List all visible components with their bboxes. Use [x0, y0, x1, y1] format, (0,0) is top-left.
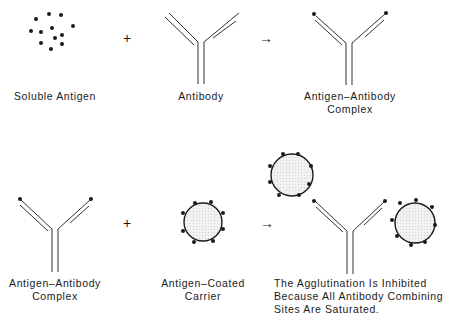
arrow-icon-bottom: →: [260, 216, 274, 230]
antibody-label: Antibody: [161, 90, 241, 103]
complex-label-top: Antigen–Antibody Complex: [295, 90, 405, 116]
soluble-antigen-dots: [29, 12, 75, 51]
antibody-shape: [165, 13, 239, 84]
soluble-antigen-label: Soluble Antigen: [5, 90, 105, 103]
saturated-antibody-shape: [316, 202, 384, 274]
result-description: The Agglutination Is Inhibited Because A…: [274, 277, 443, 316]
free-carrier-shape-right: [390, 198, 437, 247]
arrow-icon-top: →: [259, 31, 273, 45]
carrier-label-line1: Antigen–Coated: [148, 277, 258, 290]
result-line3: Sites Are Saturated.: [274, 303, 443, 316]
complex-label-bottom-line2: Complex: [0, 290, 110, 303]
result-line1: The Agglutination Is Inhibited: [274, 277, 443, 290]
antigen-antibody-complex-shape-top: [315, 14, 385, 85]
agglutination-inhibition-diagram: [0, 0, 469, 324]
antigen-antibody-complex-shape-bottom: [20, 200, 90, 272]
result-line2: Because All Antibody Combining: [274, 290, 443, 303]
complex-label-bottom-line1: Antigen–Antibody: [0, 277, 110, 290]
free-carrier-shape-top: [268, 152, 313, 197]
complex-label-top-line1: Antigen–Antibody: [295, 90, 405, 103]
complex-label-bottom: Antigen–Antibody Complex: [0, 277, 110, 303]
carrier-label-line2: Carrier: [148, 290, 258, 303]
complex-label-top-line2: Complex: [295, 103, 405, 116]
carrier-label: Antigen–Coated Carrier: [148, 277, 258, 303]
plus-operator-top: +: [123, 31, 131, 45]
antigen-coated-carrier-shape: [181, 200, 225, 244]
plus-operator-bottom: +: [123, 216, 131, 230]
